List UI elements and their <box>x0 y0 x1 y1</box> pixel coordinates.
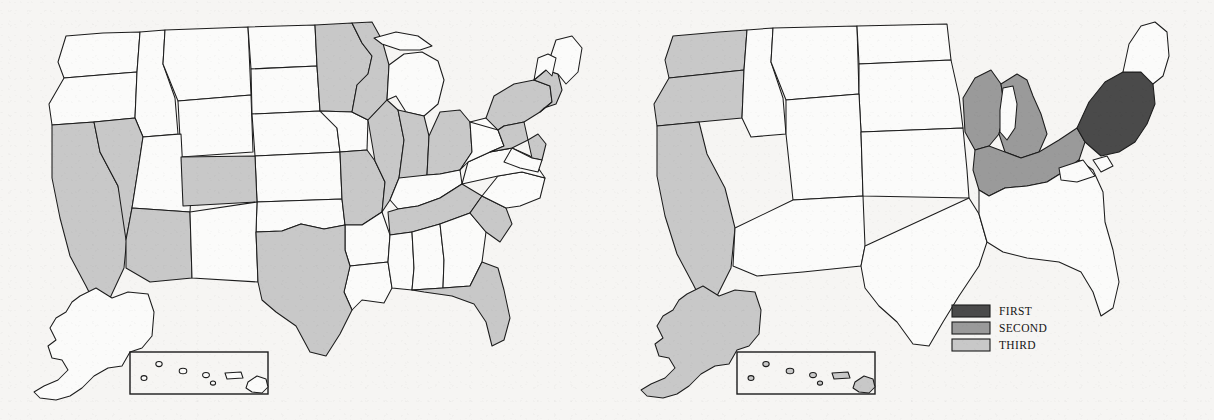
hawaii-island-molokai[interactable] <box>225 372 243 379</box>
state-new-mexico[interactable] <box>190 202 258 282</box>
state-montana[interactable] <box>771 26 859 100</box>
state-central-plains[interactable] <box>861 128 969 198</box>
state-southwest-block[interactable] <box>733 196 865 276</box>
hawaii-island-big[interactable] <box>853 376 875 393</box>
hawaii-island-2[interactable] <box>763 361 769 366</box>
region-california[interactable] <box>657 122 735 304</box>
state-indiana[interactable] <box>398 110 429 183</box>
state-texas[interactable] <box>256 224 352 356</box>
state-oregon[interactable] <box>49 72 137 125</box>
state-north-dakota[interactable] <box>248 25 317 69</box>
hawaii-island-4[interactable] <box>810 372 817 377</box>
legend-label-third: THIRD <box>999 339 1036 351</box>
state-wyoming[interactable] <box>178 95 253 157</box>
state-rocky-block[interactable] <box>786 94 863 200</box>
map-left-svg <box>0 0 607 420</box>
state-arizona[interactable] <box>126 208 192 282</box>
hawaii-islands <box>748 361 875 393</box>
legend-swatch-second[interactable] <box>952 322 990 334</box>
hawaii-island-1[interactable] <box>748 376 754 381</box>
hawaii-islands <box>141 361 268 393</box>
legend-label-second: SECOND <box>999 322 1047 334</box>
state-michigan[interactable] <box>387 52 444 116</box>
hawaii-island-3[interactable] <box>179 368 187 374</box>
legend-row-second[interactable]: SECOND <box>952 322 1047 334</box>
state-alabama[interactable] <box>412 224 444 290</box>
state-mississippi[interactable] <box>388 232 414 290</box>
region-wisconsin[interactable] <box>963 70 1005 150</box>
legend-label-first: FIRST <box>999 305 1032 317</box>
rank-legend: FIRST SECOND THIRD <box>952 305 1047 351</box>
state-colorado[interactable] <box>181 156 257 206</box>
hawaii-island-2[interactable] <box>156 361 162 366</box>
legend-swatch-first[interactable] <box>952 305 990 317</box>
figure-root: FIRST SECOND THIRD <box>0 0 1214 420</box>
state-north-dakota[interactable] <box>857 24 951 64</box>
region-mid-atlantic[interactable] <box>1077 72 1155 156</box>
hawaii-island-3[interactable] <box>786 368 794 374</box>
legend-row-first[interactable]: FIRST <box>952 305 1032 317</box>
legend-row-third[interactable]: THIRD <box>952 339 1036 351</box>
map-right-panel: FIRST SECOND THIRD <box>607 0 1214 420</box>
state-alaska[interactable] <box>34 288 154 400</box>
region-alaska[interactable] <box>641 286 761 398</box>
state-washington[interactable] <box>58 32 140 78</box>
hawaii-island-molokai[interactable] <box>832 372 850 379</box>
hawaii-island-big[interactable] <box>246 376 268 393</box>
state-louisiana[interactable] <box>344 262 392 310</box>
map-right-svg: FIRST SECOND THIRD <box>607 0 1214 420</box>
hawaii-island-4[interactable] <box>203 372 210 377</box>
state-dakotas[interactable] <box>859 60 963 132</box>
state-montana[interactable] <box>163 27 251 101</box>
map-right-regions <box>641 22 1169 398</box>
map-left-panel <box>0 0 607 420</box>
state-south-dakota[interactable] <box>251 66 320 114</box>
hawaii-island-1[interactable] <box>141 376 147 381</box>
state-kansas[interactable] <box>255 152 342 202</box>
state-chesapeake-notch[interactable] <box>1093 156 1113 172</box>
legend-swatch-third[interactable] <box>952 339 990 351</box>
map-left-states <box>34 22 582 400</box>
hawaii-island-5[interactable] <box>210 381 215 385</box>
region-oregon[interactable] <box>654 70 744 126</box>
hawaii-island-5[interactable] <box>817 381 822 385</box>
